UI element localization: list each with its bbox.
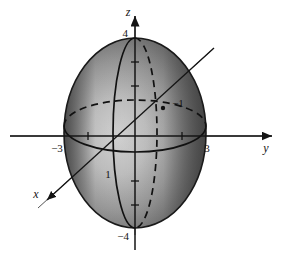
x-front-tick-label: 1	[105, 168, 111, 180]
ellipsoid-diagram-canvas: z y x 4 −4 −3 3 1 −1	[0, 0, 284, 258]
z-bottom-tick-label: −4	[117, 230, 129, 242]
z-top-tick-label: 4	[123, 27, 129, 39]
y-axis-label: y	[262, 141, 269, 155]
ellipsoid-figure: z y x 4 −4 −3 3 1 −1	[0, 0, 284, 258]
y-left-tick-label: −3	[51, 142, 63, 154]
z-axis-label: z	[125, 5, 131, 19]
x-back-tick-label: −1	[172, 97, 184, 109]
x-axis-label: x	[32, 187, 39, 201]
x-negative-one-point	[161, 106, 165, 110]
y-right-tick-label: 3	[204, 142, 210, 154]
